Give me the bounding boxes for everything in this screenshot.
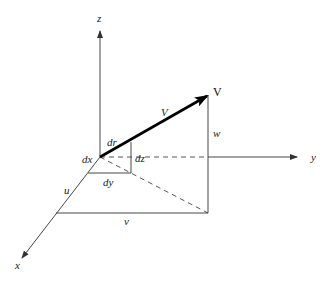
w-label: w (213, 127, 221, 139)
dr-label: dr (107, 136, 118, 148)
y-axis-label: y (310, 151, 316, 163)
vector-mid-label: V (161, 106, 169, 118)
dx-label: dx (82, 153, 93, 165)
velocity-diagram: z y x V V w v u dr dx dz dy (0, 0, 332, 283)
vector-tip-label: V (213, 85, 222, 99)
u-label: u (64, 184, 70, 196)
dy-label: dy (103, 176, 114, 188)
v-label: v (124, 215, 129, 227)
x-axis (22, 157, 100, 258)
projection-diagonal (100, 157, 208, 213)
dz-label: dz (135, 152, 146, 164)
x-axis-label: x (14, 259, 20, 271)
z-axis-label: z (96, 12, 102, 24)
